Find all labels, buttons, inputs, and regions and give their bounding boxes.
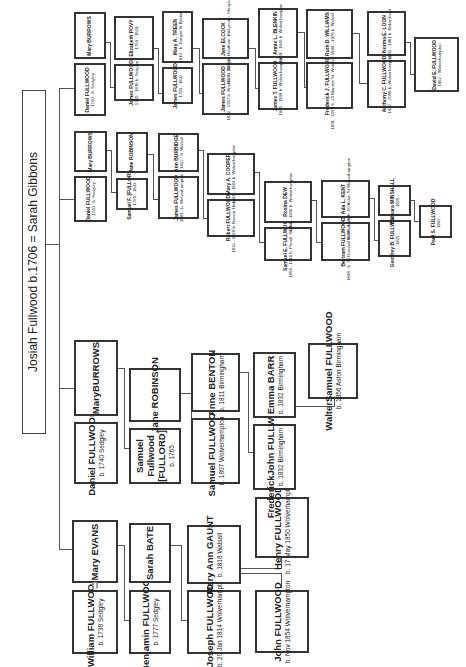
spouse-elizabeth-povy[interactable]: Elizabeth POVY1763 - 1829 xyxy=(114,16,154,60)
root-couple-title: Josiah Fullwood b.1706 = Sarah Gibbons xyxy=(22,90,46,434)
connector-line xyxy=(410,42,411,74)
person-joseph-fullwood[interactable]: Joseph FULLWOODb. 20 Jan 1814 Wolverhamp… xyxy=(187,590,241,654)
person-daniel-fullwood-b2[interactable]: Daniel FULLWOODb. 1740 Sedgley xyxy=(74,422,118,484)
spouse-ada-l-kent[interactable]: Ada L. KENT1898 - 1927 b. 50 Alden St Wo… xyxy=(321,180,370,218)
spouse-mary-evans[interactable]: Mary EVANS xyxy=(72,520,118,583)
connector-line xyxy=(304,32,305,87)
connector-line xyxy=(259,172,260,242)
spouse-jane-robinson-b3[interactable]: Jane ROBINSON xyxy=(116,132,148,173)
spouse-mary-a-cooper[interactable]: Mary A. COOPER1836 - 1863 b. Wolverhampt… xyxy=(207,153,255,195)
person-anthony-c-fullwood[interactable]: Anthony C. FULLWOOD1927 - 2008 b. Wolver… xyxy=(367,60,406,108)
connector-line xyxy=(153,154,154,199)
connector-line xyxy=(181,393,191,394)
person-william-fullwood[interactable]: William FULLWOODb. 1738 Sedgley xyxy=(72,590,118,654)
connector-line xyxy=(248,372,249,452)
spouse-barbara-minshall[interactable]: Barbara MINSHALL1925 - xyxy=(378,185,411,216)
connector-line xyxy=(124,368,125,448)
connector-line xyxy=(359,33,360,83)
connector-line xyxy=(124,545,125,620)
person-james-fullwood-b1760[interactable]: James FULLWOOD1760 - 1818 b. Sedgley xyxy=(114,64,154,101)
person-david-e-fullwood[interactable]: David E. FULLWOOD1962 - Wolverhampton xyxy=(414,37,459,92)
connector-line xyxy=(46,244,60,245)
connector-line xyxy=(110,42,111,87)
connector-line xyxy=(374,198,375,240)
root-couple-label: Josiah Fullwood b.1706 = Sarah Gibbons xyxy=(27,152,41,372)
connector-line xyxy=(181,545,182,620)
connector-line xyxy=(59,88,60,550)
person-daniel-fullwood-b3[interactable]: Daniel FULLWOOD1740 - b. Sedgley xyxy=(74,176,107,222)
spouse-ruth-d-williams[interactable]: Ruth D. WILLIAMS1890 - 1978 b. Walsall xyxy=(306,9,353,59)
spouse-annie-l-blenkin[interactable]: Annie L. BLENKIN1869 - 1940 b. Wolverham… xyxy=(258,8,298,58)
spouse-rosina-dew[interactable]: Rosina DEW1859 - 1936 b. Wolverhampton xyxy=(264,181,312,223)
person-paul-s-fullwood[interactable]: Paul S. FULLWOOD1962 - xyxy=(419,205,452,238)
connector-line xyxy=(111,150,112,192)
connector-line xyxy=(414,200,415,221)
person-frederick-john-fullwood[interactable]: FrederickJohn FULLWOODb. 1832 Birmingham xyxy=(253,424,296,490)
spouse-mary-burrows-b2[interactable]: MaryBURROWS xyxy=(74,340,118,416)
person-frederick-j-fullwood[interactable]: Frederick J. FULLWOOD1891 - 1975 b. 25 M… xyxy=(306,62,353,109)
spouse-mary-burrows-b3[interactable]: Mary BURROWS xyxy=(74,131,107,172)
connector-line xyxy=(59,388,74,389)
person-samuel-f-fullord[interactable]: Samuel F. [FULLORD]1765 - 1833 xyxy=(116,178,148,210)
connector-line xyxy=(59,88,74,89)
spouse-anne-benton[interactable]: Anne BENTONb. 1811 Birmingham xyxy=(191,353,240,412)
person-daniel-fullwood-b4[interactable]: Daniel FULLWOOD1740 - b. Sedgley xyxy=(74,63,106,116)
connector-line xyxy=(59,199,74,200)
marriage-link xyxy=(93,583,98,589)
person-benjamin-fullwood[interactable]: Benjamin FULLWOODb. 1777 Sedgley xyxy=(129,590,171,654)
person-samuel-e-fullwood[interactable]: Samuel E. FULLWOOD1858 - 1918 b. Penall,… xyxy=(264,227,312,261)
connector-line xyxy=(199,48,200,93)
connector-line xyxy=(255,48,256,88)
spouse-ann-burbidge[interactable]: Ann BURBIDGE1812 - b. Walsall xyxy=(158,133,199,172)
spouse-norma-e-loon[interactable]: Norma E. LOON1931 - 1981 b. Birkenhead xyxy=(367,11,406,56)
person-james-t-fullwood[interactable]: James T. FULLWOOD1865 - 1939 b. Wolverha… xyxy=(258,62,298,110)
spouse-jane-elcock[interactable]: Jane ELCOCK1829 - 1906 b. Heathton, Brid… xyxy=(202,18,249,59)
spouse-mary-burrows-b4[interactable]: Mary BURROWS xyxy=(74,12,106,59)
person-samuel-fullwood-fullord[interactable]: Samuel Fullwood [FULLORD]b. 1765 xyxy=(129,428,181,484)
person-samuel-fullwood-b1807[interactable]: Samuel FULLWOODb. 1807 Wolverhampton xyxy=(191,418,240,484)
connector-line xyxy=(316,200,317,242)
person-robert-fullwood[interactable]: Robert FULLWOOD1834 - 1928 b. Bescot Hea… xyxy=(207,199,255,237)
connector-line xyxy=(171,545,181,546)
spouse-mary-a-treen[interactable]: Mary A. TREEN1810 - b. Temple St Bilston xyxy=(162,11,193,63)
connector-line xyxy=(240,372,248,373)
person-walter-samuel-fullwood[interactable]: WalterSamuel FULLWOODb. 1856 Aston Birmi… xyxy=(308,343,358,399)
connector-line xyxy=(203,150,204,218)
connector-line xyxy=(158,48,159,93)
person-james-fullwood-b1801[interactable]: James FULLWOOD1801 - b. Wolverhampton xyxy=(158,176,199,219)
person-james-fullwood-b1793[interactable]: James FULLWOOD1793 - 1832 xyxy=(162,67,193,104)
person-geoffrey-b-fullwood[interactable]: Geoffrey B. FULLWOOD1925 - xyxy=(378,220,411,257)
spouse-emma-barr[interactable]: Emma BARRb. 1832 Birmingham xyxy=(253,352,296,418)
spouse-jane-robinson-b2[interactable]: Jane ROBINSON xyxy=(129,368,181,422)
spouse-sarah-bate[interactable]: Sarah BATE xyxy=(129,523,171,583)
person-john-fullwood[interactable]: John FULLWOODb. Nov 1854 Wolverhampton xyxy=(255,590,309,653)
spouse-mary-ann-gaunt[interactable]: Mary Ann GAUNTb. 1818 Walsall xyxy=(187,525,241,584)
